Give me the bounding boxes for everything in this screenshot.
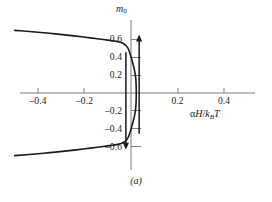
up-arrow — [136, 34, 142, 133]
y-tick-label: –0.2 — [0, 106, 122, 116]
down-arrow — [123, 52, 129, 150]
x-tick-label: 0.2 — [171, 96, 183, 106]
x-tick-label: –0.2 — [76, 96, 93, 106]
x-axis-label: αH/kBT — [190, 108, 220, 121]
y-tick-label: 0.6 — [0, 34, 122, 44]
hysteresis-figure: m0 αH/kBT –0.4–0.20.20.4 –0.6–0.4–0.20.2… — [0, 0, 272, 202]
x-axis-label-temperature: T — [214, 108, 220, 119]
y-axis-label-subscript: 0 — [123, 7, 127, 15]
y-tick-label: –0.6 — [0, 142, 122, 152]
y-tick-label: 0.4 — [0, 52, 122, 62]
y-axis-label: m0 — [116, 3, 127, 15]
x-tick-label: –0.4 — [29, 96, 46, 106]
y-tick-label: –0.4 — [0, 124, 122, 134]
y-tick-label: 0.2 — [0, 70, 122, 80]
figure-caption: (a) — [0, 175, 272, 186]
x-tick-label: 0.4 — [218, 96, 230, 106]
